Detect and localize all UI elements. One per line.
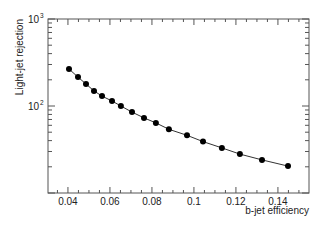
x-axis-label: b-jet efficiency [245,205,309,216]
series-line [69,69,288,166]
x-tick-label: 0.08 [142,196,162,207]
data-point-marker [184,132,190,138]
data-point-marker [259,157,265,163]
data-point-marker [129,109,135,115]
y-axis-tick-labels: 102103 [28,12,44,112]
y-tick-label: 10 [28,101,40,112]
data-point-marker [219,145,225,151]
data-point-marker [75,74,81,80]
data-point-marker [200,139,206,145]
plot-frame [48,19,309,193]
data-point-marker [99,93,105,99]
x-tick-label: 0.04 [58,196,78,207]
data-point-marker [66,66,72,72]
x-tick-label: 0.1 [187,196,201,207]
plot-border [48,19,309,193]
x-tick-label: 0.12 [226,196,246,207]
data-point-marker [91,88,97,94]
chart: 0.040.060.080.10.120.14 102103 b-jet eff… [0,0,326,226]
x-axis-ticks [57,19,298,193]
data-point-marker [141,115,147,121]
data-point-marker [285,163,291,169]
y-tick-label-exponent: 3 [40,12,44,19]
y-tick-label-exponent: 2 [40,99,44,106]
data-point-marker [166,126,172,132]
data-point-marker [237,151,243,157]
data-point-marker [109,98,115,104]
y-axis-ticks [48,19,309,193]
y-axis-label: Light-jet rejection [14,19,25,95]
data-series [66,66,291,169]
data-point-marker [83,81,89,87]
y-tick-label: 10 [28,14,40,25]
x-tick-label: 0.06 [100,196,120,207]
data-point-marker [118,103,124,109]
data-point-marker [153,120,159,126]
